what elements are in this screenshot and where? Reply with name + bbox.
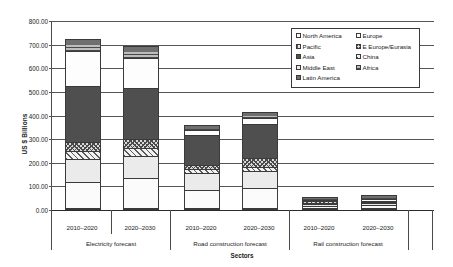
legend-swatch-icon — [356, 33, 361, 38]
bar-stack — [361, 195, 397, 210]
y-tick-label: 800.00 — [29, 18, 48, 25]
bar-segment-northamerica — [185, 191, 219, 209]
bar-stack — [302, 197, 338, 210]
bar-segment-asia — [124, 89, 158, 140]
legend-label: Africa — [363, 64, 379, 71]
legend-item-northamerica[interactable]: North America — [296, 32, 356, 39]
x-period-label: 2020–2030 — [244, 224, 275, 231]
legend-swatch-icon — [296, 54, 301, 59]
x-axis-separator — [111, 210, 112, 234]
bar-stack — [242, 112, 278, 210]
bar-segment-middleeast — [185, 174, 219, 191]
legend-item-asia[interactable]: Asia — [296, 53, 356, 60]
x-period-label: 2010–2020 — [186, 224, 217, 231]
legend-swatch-icon — [356, 44, 361, 49]
y-tick-mark — [49, 139, 52, 140]
x-axis-group-separator — [51, 210, 52, 250]
legend-swatch-icon — [356, 65, 361, 70]
legend: North AmericaEuropePacificE Europe/Euras… — [291, 28, 420, 88]
y-tick-label: 300.00 — [29, 136, 48, 143]
y-tick-mark — [49, 92, 52, 93]
legend-label: Europe — [363, 32, 383, 39]
x-group-label: Rail construction forecast — [313, 240, 382, 247]
x-axis-group-separator — [432, 210, 433, 250]
legend-swatch-icon — [296, 44, 301, 49]
legend-label: North America — [303, 32, 342, 39]
x-period-label: 2020–2030 — [125, 224, 156, 231]
legend-item-africa[interactable]: Africa — [356, 64, 416, 71]
bar-segment-middleeast — [124, 157, 158, 179]
y-tick-label: 400.00 — [29, 112, 48, 119]
legend-swatch-icon — [356, 54, 361, 59]
y-tick-mark — [49, 45, 52, 46]
bar-segment-northamerica — [362, 206, 396, 209]
bar-segment-asia — [66, 87, 100, 143]
y-tick-label: 700.00 — [29, 41, 48, 48]
bar-segment-middleeast — [66, 160, 100, 183]
bar-stack — [184, 125, 220, 210]
y-tick-label: 100.00 — [29, 183, 48, 190]
bar-segment-middleeast — [243, 172, 277, 189]
x-axis-group-separator — [408, 210, 409, 250]
x-axis: 2010–20202020–20302010–20202020–20302010… — [51, 210, 433, 267]
x-period-label: 2010–2020 — [304, 224, 335, 231]
y-tick-mark — [49, 21, 52, 22]
y-tick-mark — [49, 163, 52, 164]
bar-segment-china — [124, 149, 158, 157]
legend-item-europe[interactable]: Europe — [356, 32, 416, 39]
bar-segment-northamerica — [243, 189, 277, 209]
bar-segment-europe — [243, 119, 277, 126]
legend-swatch-icon — [296, 65, 301, 70]
legend-swatch-icon — [296, 33, 301, 38]
bar-segment-africa — [66, 45, 100, 52]
y-tick-label: 0.00 — [36, 207, 48, 214]
legend-label: Asia — [303, 53, 315, 60]
legend-label: Pacific — [303, 43, 321, 50]
bar-segment-asia — [243, 125, 277, 159]
x-axis-title: Sectors — [230, 252, 253, 259]
legend-swatch-icon — [296, 75, 301, 80]
bar-segment-europe — [66, 52, 100, 87]
legend-item-latinamerica[interactable]: Latin America — [296, 74, 356, 81]
x-axis-group-separator — [170, 210, 171, 250]
x-axis-group-separator — [289, 210, 290, 250]
bar-segment-eeurope — [124, 140, 158, 148]
x-group-label: Road construction forecast — [193, 240, 267, 247]
bar-segment-eeurope — [66, 143, 100, 152]
x-period-label: 2020–2030 — [363, 224, 394, 231]
bar-segment-africa — [124, 52, 158, 59]
bar-segment-northamerica — [303, 207, 337, 209]
legend-item-china[interactable]: China — [356, 53, 416, 60]
legend-label: Middle East — [303, 64, 335, 71]
legend-label: E Europe/Eurasia — [363, 43, 412, 50]
y-tick-mark — [49, 116, 52, 117]
y-tick-mark — [49, 186, 52, 187]
legend-item-pacific[interactable]: Pacific — [296, 43, 356, 50]
legend-label: China — [363, 53, 379, 60]
legend-item-middleeast[interactable]: Middle East — [296, 64, 356, 71]
y-axis-tick-labels: 800.00700.00600.00500.00400.00300.00200.… — [14, 0, 48, 267]
y-tick-label: 200.00 — [29, 159, 48, 166]
x-period-label: 2010–2020 — [67, 224, 98, 231]
legend-label: Latin America — [303, 74, 341, 81]
bar-segment-europe — [124, 59, 158, 89]
bar-segment-china — [66, 152, 100, 160]
bar-stack — [123, 46, 159, 210]
x-group-label: Electricity forecast — [86, 240, 136, 247]
bar-segment-northamerica — [124, 179, 158, 209]
legend-item-eeurope[interactable]: E Europe/Eurasia — [356, 43, 416, 50]
bar-stack — [65, 39, 101, 210]
y-tick-mark — [49, 68, 52, 69]
bar-segment-eeurope — [243, 159, 277, 168]
bar-segment-northamerica — [66, 183, 100, 209]
stacked-bar-chart: US $ Billions 800.00700.00600.00500.0040… — [0, 0, 453, 267]
y-tick-label: 600.00 — [29, 65, 48, 72]
gridline — [52, 21, 434, 22]
bar-segment-asia — [185, 136, 219, 166]
gridline — [52, 92, 434, 93]
y-tick-label: 500.00 — [29, 88, 48, 95]
